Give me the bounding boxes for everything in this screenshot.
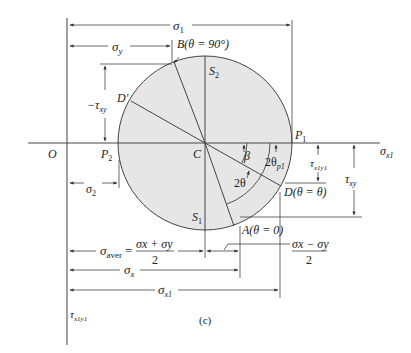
mohr-circle-diagram: σ1 σy B(θ = 90°) S2 −τxy D′ P1 O P2 C σx… (0, 0, 411, 353)
sigma-aver-numerator: σx + σy (136, 237, 173, 251)
p2-label: P2 (100, 147, 112, 163)
point-d-prime-label: D′ (116, 91, 129, 105)
sigma-y-label: σy (112, 39, 122, 56)
tau-x1y1-label: τx1y1 (310, 157, 327, 172)
sigma-x1-label: σx1 (158, 282, 172, 299)
sigma-aver-label: σaver= (100, 243, 132, 260)
p1-label: P1 (294, 128, 306, 144)
figure-caption: (c) (199, 314, 212, 327)
tau-xy-label: τxy (345, 172, 357, 188)
half-diff-denominator: 2 (306, 253, 312, 267)
sigma-aver-denominator: 2 (152, 253, 158, 267)
beta-label: β (243, 149, 250, 163)
sigma-x-label: σx (124, 262, 134, 279)
point-a-label: A(θ = 0) (241, 223, 283, 237)
point-b-label: B(θ = 90°) (177, 37, 229, 51)
sigma-axis-label: σx1 (380, 144, 393, 160)
half-diff-numerator: σx − σy (292, 237, 329, 251)
two-theta-label: 2θ (234, 176, 246, 190)
point-d-label: D(θ = θ) (283, 185, 327, 199)
origin-label: O (48, 147, 57, 161)
sigma2-label: σ2 (86, 182, 96, 198)
tau-axis-label: τx1y1 (70, 308, 87, 323)
sigma1-label: σ1 (173, 18, 184, 35)
center-c-label: C (193, 147, 202, 161)
neg-tau-xy-label: −τxy (87, 98, 107, 114)
